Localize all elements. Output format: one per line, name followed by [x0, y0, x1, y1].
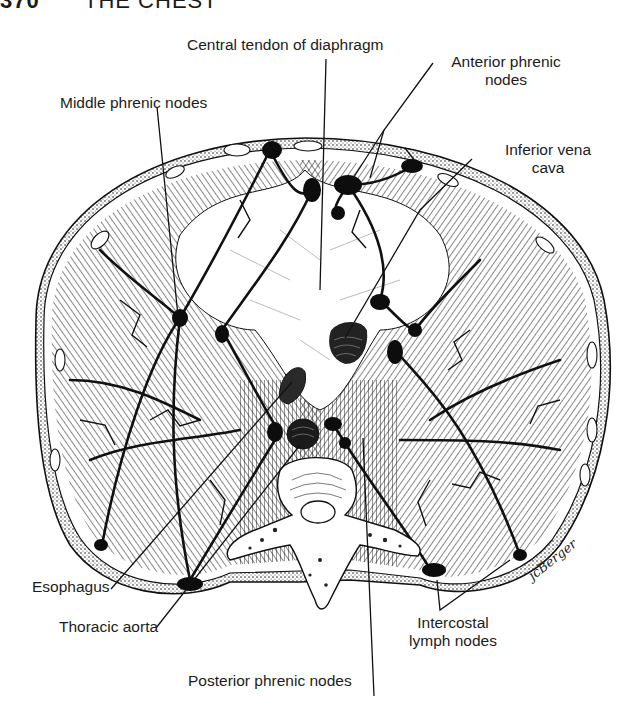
label-intercostal-line2: lymph nodes: [388, 632, 518, 650]
node: [370, 294, 390, 310]
node: [331, 206, 345, 220]
node: [172, 309, 188, 327]
label-intercostal-line1: Intercostal: [388, 614, 518, 632]
node: [215, 325, 229, 343]
node: [408, 323, 422, 337]
node: [334, 175, 362, 195]
label-esophagus: Esophagus: [32, 578, 110, 596]
label-anterior-phrenic-line1: Anterior phrenic: [436, 53, 576, 71]
label-anterior-phrenic-line2: nodes: [436, 71, 576, 89]
label-intercostal-lymph-nodes: Intercostal lymph nodes: [388, 614, 518, 650]
label-inferior-vena-cava: Inferior vena cava: [488, 141, 608, 177]
node: [387, 340, 403, 364]
node: [303, 178, 321, 202]
diaphragm-figure: Central tendon of diaphragm Anterior phr…: [0, 0, 642, 723]
label-posterior-phrenic-nodes: Posterior phrenic nodes: [188, 672, 352, 690]
label-ivc-line2: cava: [488, 159, 608, 177]
node: [324, 417, 342, 431]
label-middle-phrenic-nodes: Middle phrenic nodes: [60, 94, 207, 112]
label-anterior-phrenic-nodes: Anterior phrenic nodes: [436, 53, 576, 89]
label-thoracic-aorta: Thoracic aorta: [59, 618, 158, 636]
label-central-tendon: Central tendon of diaphragm: [187, 36, 383, 54]
node: [513, 549, 527, 561]
label-ivc-line1: Inferior vena: [488, 141, 608, 159]
node: [401, 159, 423, 173]
node: [267, 422, 283, 442]
node: [422, 563, 446, 577]
node: [94, 539, 108, 551]
node: [339, 437, 351, 449]
node: [262, 141, 282, 159]
